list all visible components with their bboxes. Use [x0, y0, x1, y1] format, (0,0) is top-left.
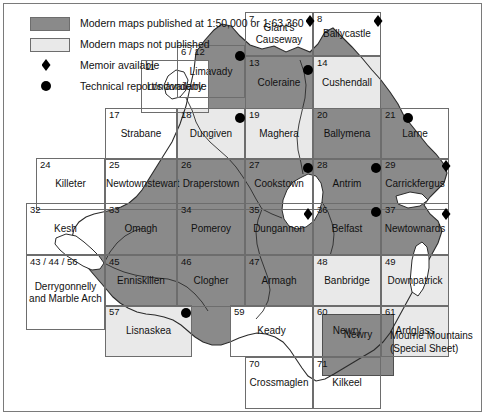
map-stage: Newry 7Giant'sCauseway8Ballycastle6 / 12…: [0, 0, 487, 417]
cell-name: Dungannon: [246, 223, 312, 235]
cell-name: Cushendall: [314, 77, 380, 89]
cell-number: 34: [181, 204, 192, 216]
map-cell-46[interactable]: 46Clogher: [177, 255, 245, 307]
cell-number: 70: [249, 358, 260, 370]
map-cell-45[interactable]: 45Enniskillen: [105, 255, 177, 307]
legend-label-unpublished: Modern maps not published: [80, 37, 210, 52]
map-cell-33[interactable]: 33Omagh: [105, 203, 177, 255]
map-cell-17[interactable]: 17Strabane: [105, 108, 177, 160]
cell-number: 13: [249, 57, 260, 69]
map-cell-8[interactable]: 8Ballycastle: [313, 12, 381, 56]
cell-name: Ballycastle: [314, 28, 380, 40]
legend-item-memoir: Memoir available: [18, 56, 250, 77]
cell-name: Cookstown: [246, 178, 312, 190]
map-cell-71[interactable]: 71Kilkeel: [313, 357, 381, 409]
cell-number: 21: [385, 109, 396, 121]
cell-number: 8: [317, 13, 322, 25]
legend-label-published: Modern maps published at 1:50,000 or 1:6…: [80, 16, 304, 31]
cell-name: Coleraine: [246, 77, 312, 89]
cell-name: Banbridge: [314, 275, 380, 287]
map-cell-47[interactable]: 47Armagh: [245, 255, 313, 307]
cell-number: 29: [385, 159, 396, 171]
cell-name: Strabane: [106, 128, 176, 140]
cell-name: Derrygonnellyand Marble Arch: [27, 281, 104, 305]
map-cell-34[interactable]: 34Pomeroy: [177, 203, 245, 255]
cell-name: Draperstown: [178, 178, 244, 190]
map-cell-35[interactable]: 35Dungannon: [245, 203, 313, 255]
cell-name: Crossmaglen: [246, 377, 312, 389]
legend-label-technical-report: Technical report/s available: [80, 79, 207, 94]
cell-number: 46: [181, 256, 192, 268]
cell-number: 33: [109, 204, 120, 216]
cell-name: Larne: [382, 128, 448, 140]
cell-number: 60: [317, 306, 328, 318]
published-swatch: [30, 17, 70, 31]
mourne-mountains-note-line2: (Special Sheet): [390, 343, 458, 355]
map-cell-59[interactable]: 59Keady: [230, 305, 313, 357]
cell-number: 32: [30, 204, 41, 216]
cell-number: 25: [109, 159, 120, 171]
cell-name: Kesh: [27, 223, 104, 235]
cell-name: Dungiven: [178, 128, 244, 140]
cell-name: Belfast: [314, 223, 380, 235]
cell-name: Kilkeel: [314, 377, 380, 389]
cell-name: Lisnaskea: [106, 325, 191, 337]
legend-item-unpublished: Modern maps not published: [18, 35, 250, 56]
cell-name: Enniskillen: [106, 275, 176, 287]
cell-number: 48: [317, 256, 328, 268]
cell-number: 35: [249, 204, 260, 216]
cell-number: 27: [249, 159, 260, 171]
cell-number: 19: [249, 109, 260, 121]
cell-number: 47: [249, 256, 260, 268]
cell-name: Newry: [314, 325, 380, 337]
cell-number: 49: [385, 256, 396, 268]
cell-number: 18: [181, 109, 192, 121]
map-cell-60[interactable]: 60Newry: [313, 305, 381, 357]
cell-name: Carrickfergus: [382, 178, 448, 190]
cell-number: 24: [40, 159, 51, 171]
cell-number: 61: [385, 306, 396, 318]
map-cell-32[interactable]: 32Kesh: [26, 203, 105, 255]
cell-number: 43 / 44 / 56: [30, 256, 78, 268]
cell-name: Downpatrick: [382, 275, 448, 287]
cell-name: Killeter: [37, 178, 104, 190]
cell-number: 20: [317, 109, 328, 121]
legend-item-technical-report: Technical report/s available: [18, 77, 250, 98]
map-cell-43-44-56[interactable]: 43 / 44 / 56Derrygonnellyand Marble Arch: [26, 255, 105, 330]
cell-name: Ballymena: [314, 128, 380, 140]
map-cell-19[interactable]: 19Maghera: [245, 108, 313, 160]
cell-number: 71: [317, 358, 328, 370]
map-cell-57[interactable]: 57Lisnaskea: [105, 305, 192, 357]
cell-name: Maghera: [246, 128, 312, 140]
map-cell-49[interactable]: 49Downpatrick: [381, 255, 449, 307]
cell-name: Omagh: [106, 223, 176, 235]
cell-number: 26: [181, 159, 192, 171]
cell-number: 45: [109, 256, 120, 268]
mourne-mountains-note-line1: Mourne Mountains: [390, 330, 473, 342]
cell-name: Clogher: [178, 275, 244, 287]
map-figure: Newry 7Giant'sCauseway8Ballycastle6 / 12…: [0, 0, 487, 417]
cell-name: Armagh: [246, 275, 312, 287]
map-cell-20[interactable]: 20Ballymena: [313, 108, 381, 160]
map-cell-21[interactable]: 21Larne: [381, 108, 449, 160]
cell-number: 59: [234, 306, 245, 318]
cell-number: 37: [385, 204, 396, 216]
cell-name: Antrim: [314, 178, 380, 190]
map-cell-48[interactable]: 48Banbridge: [313, 255, 381, 307]
cell-number: 57: [109, 306, 120, 318]
map-cell-70[interactable]: 70Crossmaglen: [245, 357, 313, 409]
map-cell-14[interactable]: 14Cushendall: [313, 56, 381, 109]
cell-name: Keady: [231, 325, 312, 337]
map-cell-13[interactable]: 13Coleraine: [245, 56, 313, 109]
legend-label-memoir: Memoir available: [80, 58, 159, 73]
cell-number: 17: [109, 109, 120, 121]
cell-number: 36: [317, 204, 328, 216]
cell-name: Pomeroy: [178, 223, 244, 235]
cell-name: Newtownstewart: [106, 178, 176, 190]
map-cell-37[interactable]: 37Newtownards: [381, 203, 449, 255]
cell-number: 14: [317, 57, 328, 69]
legend: Modern maps published at 1:50,000 or 1:6…: [18, 14, 250, 98]
cell-number: 28: [317, 159, 328, 171]
legend-item-published: Modern maps published at 1:50,000 or 1:6…: [18, 14, 250, 35]
cell-name: Newtownards: [382, 223, 448, 235]
